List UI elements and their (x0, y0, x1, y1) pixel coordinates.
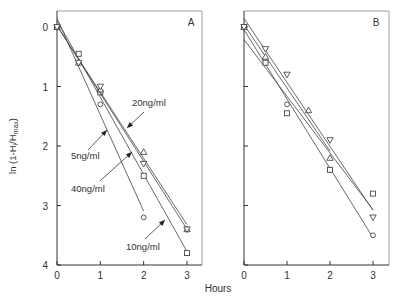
panel-A: 012301234A (42, 11, 202, 281)
y-tick-label: 3 (42, 201, 48, 212)
panel-label: B (373, 17, 380, 28)
data-point-square (141, 173, 146, 178)
panel-B: 0123B (241, 11, 389, 281)
chart: 012301234A0123B20ng/ml5ng/ml40ng/ml10ng/… (0, 0, 396, 298)
series-annotation: 10ng/ml (126, 241, 160, 252)
x-tick-label: 2 (141, 270, 147, 281)
y-tick-label: 4 (42, 260, 48, 271)
y-tick-label: 2 (42, 141, 48, 152)
data-point-circle (141, 215, 146, 220)
data-point-square (328, 167, 333, 172)
series-annotation: 40ng/ml (71, 183, 105, 194)
data-point-square (371, 191, 376, 196)
x-tick-label: 0 (241, 270, 247, 281)
fit-line (57, 26, 187, 229)
x-tick-label: 1 (284, 270, 290, 281)
data-point-square (76, 51, 81, 56)
series-annotation: 20ng/ml (132, 97, 166, 108)
fit-line (244, 25, 330, 151)
x-tick-label: 0 (54, 270, 60, 281)
data-point-triangle-down (370, 215, 376, 221)
y-tick-label: 1 (42, 82, 48, 93)
y-tick-label: 0 (42, 22, 48, 33)
x-axis-label: Hours (205, 283, 232, 294)
x-tick-label: 2 (327, 270, 333, 281)
data-point-triangle-down (284, 72, 290, 78)
data-point-square (263, 60, 268, 65)
data-point-triangle-up (140, 149, 146, 155)
x-tick-label: 3 (370, 270, 376, 281)
series-annotation: 5ng/ml (71, 150, 100, 161)
data-point-circle (371, 233, 376, 238)
y-axis-label: ln (1-Hi/Hmax) (7, 118, 19, 174)
data-point-square (285, 111, 290, 116)
annotation-arrow (100, 152, 132, 181)
data-point-circle (98, 102, 103, 107)
data-point-triangle-up (305, 107, 311, 113)
data-point-triangle-down (262, 47, 268, 53)
x-tick-label: 1 (98, 270, 104, 281)
data-point-circle (285, 102, 290, 107)
data-point-square (185, 251, 190, 256)
x-tick-label: 3 (184, 270, 190, 281)
panel-frame (57, 11, 202, 265)
panel-label: A (188, 17, 195, 28)
